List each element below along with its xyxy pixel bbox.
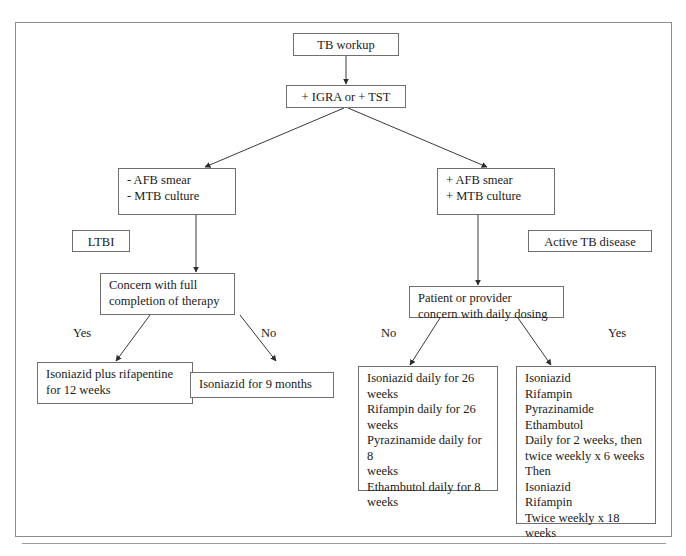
node-negative-smear-culture[interactable]: - AFB smear - MTB culture <box>118 168 236 215</box>
node-concern-completion-label: Concern with full completion of therapy <box>101 274 234 313</box>
flowchart-canvas: TB workup + IGRA or + TST - AFB smear - … <box>0 0 686 556</box>
node-ltbi-label: LTBI <box>73 231 129 255</box>
node-daily-regimen[interactable]: Isoniazid daily for 26 weeks Rifampin da… <box>358 366 498 491</box>
node-isoniazid-9-months-label: Isoniazid for 9 months <box>191 373 333 397</box>
node-concern-daily-dosing-label: Patient or provider concern with daily d… <box>410 287 563 326</box>
node-active-tb-disease-label: Active TB disease <box>529 231 651 255</box>
node-intermittent-regimen-label: Isoniazid Rifampin Pyrazinamide Ethambut… <box>517 367 655 546</box>
edge-label-ltbi-no: No <box>261 326 276 340</box>
node-positive-smear-culture-label: + AFB smear + MTB culture <box>438 169 554 208</box>
node-positive-smear-culture[interactable]: + AFB smear + MTB culture <box>437 168 555 215</box>
node-intermittent-regimen[interactable]: Isoniazid Rifampin Pyrazinamide Ethambut… <box>516 366 656 524</box>
node-daily-regimen-label: Isoniazid daily for 26 weeks Rifampin da… <box>359 367 497 515</box>
edge-label-active-no: No <box>381 326 396 340</box>
node-isoniazid-rifapentine-label: Isoniazid plus rifapentine for 12 weeks <box>38 363 192 402</box>
node-isoniazid-9-months[interactable]: Isoniazid for 9 months <box>190 372 334 398</box>
node-tb-workup[interactable]: TB workup <box>293 33 399 56</box>
node-concern-completion[interactable]: Concern with full completion of therapy <box>100 273 235 315</box>
node-tb-workup-label: TB workup <box>294 34 398 58</box>
node-negative-smear-culture-label: - AFB smear - MTB culture <box>119 169 235 208</box>
node-active-tb-disease[interactable]: Active TB disease <box>528 230 652 252</box>
node-isoniazid-rifapentine[interactable]: Isoniazid plus rifapentine for 12 weeks <box>37 362 193 404</box>
node-concern-daily-dosing[interactable]: Patient or provider concern with daily d… <box>409 286 564 318</box>
node-ltbi[interactable]: LTBI <box>72 230 130 252</box>
edge-label-active-yes: Yes <box>608 326 626 340</box>
node-igra-tst-label: + IGRA or + TST <box>287 86 405 110</box>
node-igra-tst[interactable]: + IGRA or + TST <box>286 85 406 108</box>
edge-label-ltbi-yes: Yes <box>73 326 91 340</box>
